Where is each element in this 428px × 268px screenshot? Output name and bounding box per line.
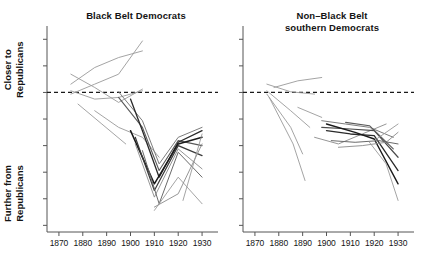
series-bb-10 <box>131 131 203 184</box>
series-nb-1 <box>274 78 322 88</box>
series-bb-5 <box>78 104 126 144</box>
panel-non-black-belt-southern-democrats <box>239 26 414 236</box>
series-bb-8 <box>119 97 203 170</box>
series-nb-5 <box>269 97 305 180</box>
plot-canvas <box>0 0 428 268</box>
series-bb-7 <box>119 92 203 164</box>
x-tick-label-1930: 1930 <box>187 238 217 248</box>
x-tick-label-1930: 1930 <box>383 238 413 248</box>
series-bb-2 <box>71 41 143 94</box>
series-nb-6 <box>298 107 322 117</box>
chart-figure: Black Belt Democrats Non–Black Belt sout… <box>0 0 428 268</box>
panel-black-belt-democrats <box>43 26 218 236</box>
series-nb-3 <box>267 91 310 128</box>
series-nb-16 <box>374 124 398 141</box>
series-nb-15 <box>369 142 398 200</box>
